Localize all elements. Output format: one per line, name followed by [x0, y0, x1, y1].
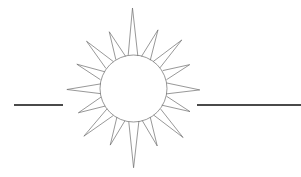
figure-canvas: [0, 0, 301, 177]
canvas-background: [0, 0, 301, 177]
